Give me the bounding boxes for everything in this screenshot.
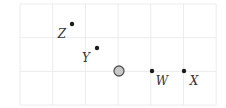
point-dot [150, 69, 154, 73]
point-dot [182, 69, 186, 73]
center-circle-marker [114, 66, 124, 76]
point-dot [70, 22, 74, 26]
point-label: W [156, 74, 170, 88]
point-label: X [189, 74, 199, 88]
coordinate-grid-diagram: ZYWX [0, 0, 226, 108]
point-label: Z [57, 27, 67, 41]
point-label: Y [82, 51, 91, 65]
labeled-points: ZYWX [57, 22, 199, 88]
point-dot [95, 46, 99, 50]
point-y: Y [82, 46, 99, 65]
grid-lines [20, 4, 216, 105]
